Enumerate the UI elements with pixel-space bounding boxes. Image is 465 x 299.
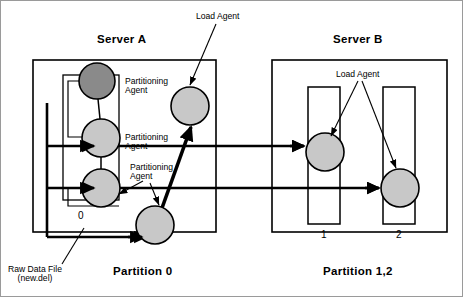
leader-raw-data-file xyxy=(62,228,84,264)
partitioning-agent-label-2: Partitioning Agent xyxy=(125,133,168,152)
diagram-canvas: Server A Server B Load Agent Load Agent … xyxy=(0,0,465,299)
partition-1-number: 1 xyxy=(321,230,327,241)
load-agent-top-label: Load Agent xyxy=(196,12,240,21)
connector-dark-to-mid xyxy=(98,99,100,119)
server-a-title: Server A xyxy=(97,33,146,45)
node-partitioning-agent-mid xyxy=(82,119,120,157)
leader-load-agent-b2 xyxy=(362,81,396,168)
server-b-title: Server B xyxy=(333,33,383,45)
leader-load-agent-b1 xyxy=(331,81,358,136)
node-load-agent-b2 xyxy=(381,169,419,207)
load-agent-b-label: Load Agent xyxy=(336,70,380,79)
raw-data-file-label: Raw Data File (new.del) xyxy=(8,265,62,284)
node-load-agent-a xyxy=(171,87,209,125)
partition-0-caption: Partition 0 xyxy=(113,265,173,277)
leader-partitioning-agent-3b xyxy=(150,183,159,205)
partition-0-number: 0 xyxy=(78,211,84,222)
diagram-graphics xyxy=(0,0,465,299)
partitioning-agent-label-3: Partitioning Agent xyxy=(130,163,173,182)
leader-load-agent-top xyxy=(190,24,216,85)
partition-12-caption: Partition 1,2 xyxy=(323,265,393,277)
partition-2-number: 2 xyxy=(396,230,402,241)
node-load-agent-b1 xyxy=(306,133,344,171)
node-partitioning-agent-dark xyxy=(79,63,115,99)
partitioning-agent-label-1: Partitioning Agent xyxy=(125,77,168,96)
